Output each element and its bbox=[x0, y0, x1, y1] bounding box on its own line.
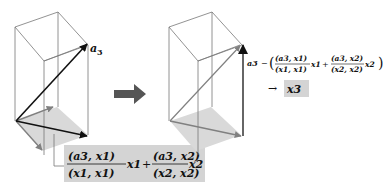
formula-term1-den: (x1, x1) bbox=[275, 65, 307, 74]
formula-rparen: ) bbox=[378, 55, 383, 71]
gram-schmidt-diagram: a 3 (a3, x1) (x1, x1) x1 + (a3, x2) (x2,… bbox=[0, 0, 388, 188]
result: → x3 bbox=[268, 80, 309, 97]
right-arrow-icon bbox=[114, 84, 146, 104]
formula-term1-vec: x1 bbox=[310, 60, 321, 69]
orthogonal-formula: a3 − ( (a3, x1) (x1, x1) x1 + (a3, x2) (… bbox=[247, 54, 383, 74]
term2-vector: x2 bbox=[188, 158, 204, 171]
formula-lparen: ( bbox=[269, 55, 274, 71]
term1-numerator: (a3, x1) bbox=[68, 150, 115, 163]
a3-label-sub: 3 bbox=[97, 47, 103, 57]
formula-term2-vec: x2 bbox=[364, 60, 375, 69]
plus-sign: + bbox=[142, 158, 151, 171]
result-arrow-icon: → bbox=[268, 82, 277, 95]
formula-term1-num: (a3, x1) bbox=[275, 54, 308, 63]
right-panel bbox=[169, 12, 243, 155]
formula-lhs: a3 bbox=[247, 58, 258, 68]
formula-term2-num: (a3, x2) bbox=[331, 54, 364, 63]
formula-plus: + bbox=[322, 60, 329, 69]
projection-label: (a3, x1) (x1, x1) x1 + (a3, x2) (x2, x2)… bbox=[64, 145, 205, 182]
result-x3: x3 bbox=[286, 83, 302, 96]
formula-minus: − bbox=[261, 59, 268, 68]
formula-term2-den: (x2, x2) bbox=[331, 65, 363, 74]
term1-vector: x1 bbox=[126, 158, 141, 171]
term1-denominator: (x1, x1) bbox=[68, 167, 115, 180]
left-panel: a 3 bbox=[15, 12, 103, 166]
